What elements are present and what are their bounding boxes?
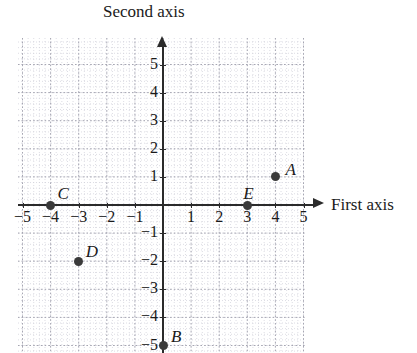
y-tick-mark xyxy=(160,289,166,290)
x-axis-title: First axis xyxy=(331,195,394,215)
y-tick-mark xyxy=(160,149,166,150)
y-tick-label: −2 xyxy=(132,252,158,268)
arrow-up-icon xyxy=(157,36,167,47)
x-axis-line xyxy=(18,204,316,206)
y-tick-label: 2 xyxy=(132,140,158,156)
y-tick-mark xyxy=(160,65,166,66)
y-tick-mark xyxy=(160,317,166,318)
data-point-c xyxy=(46,201,55,210)
coordinate-plane-figure: First axis Second axis −5−4−3−2−11234554… xyxy=(0,0,417,353)
y-tick-label: −3 xyxy=(132,280,158,296)
y-tick-label: 1 xyxy=(132,168,158,184)
point-label-b: B xyxy=(171,327,181,347)
y-tick-mark xyxy=(160,261,166,262)
point-label-d: D xyxy=(86,242,98,262)
x-tick-label: −2 xyxy=(96,209,118,225)
y-tick-mark xyxy=(160,233,166,234)
x-tick-mark xyxy=(304,203,305,208)
data-point-d xyxy=(74,257,83,266)
x-tick-label: −3 xyxy=(68,209,90,225)
x-tick-label: 1 xyxy=(180,209,202,225)
point-label-c: C xyxy=(58,184,69,204)
x-tick-mark xyxy=(107,203,108,208)
y-tick-mark xyxy=(160,177,166,178)
y-tick-label: −1 xyxy=(132,224,158,240)
point-label-a: A xyxy=(285,160,295,180)
y-axis-title: Second axis xyxy=(103,2,185,22)
y-tick-label: 5 xyxy=(132,56,158,72)
x-tick-mark xyxy=(191,203,192,208)
x-tick-label: 4 xyxy=(264,209,286,225)
x-tick-label: 3 xyxy=(236,209,258,225)
y-tick-mark xyxy=(160,121,166,122)
y-tick-label: 3 xyxy=(132,112,158,128)
y-tick-mark xyxy=(160,93,166,94)
x-tick-mark xyxy=(219,203,220,208)
x-tick-label: −4 xyxy=(40,209,62,225)
x-tick-mark xyxy=(275,203,276,208)
x-tick-label: 2 xyxy=(208,209,230,225)
y-tick-label: 4 xyxy=(132,84,158,100)
x-tick-label: −5 xyxy=(12,209,34,225)
point-label-e: E xyxy=(243,184,253,204)
x-tick-label: 5 xyxy=(293,209,315,225)
x-tick-mark xyxy=(135,203,136,208)
arrow-right-icon xyxy=(313,198,324,208)
data-point-b xyxy=(159,341,168,350)
y-tick-label: −4 xyxy=(132,308,158,324)
x-tick-mark xyxy=(79,203,80,208)
y-tick-label: −5 xyxy=(132,337,158,353)
x-tick-mark xyxy=(23,203,24,208)
